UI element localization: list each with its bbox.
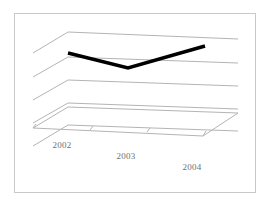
chart-background bbox=[0, 0, 270, 205]
x-tick-label-2004: 2004 bbox=[183, 162, 202, 172]
chart-canvas: 200220032004 bbox=[0, 0, 270, 205]
x-tick-label-2002: 2002 bbox=[53, 140, 72, 150]
x-tick-label-2003: 2003 bbox=[117, 151, 136, 161]
chart-3d-line: 200220032004 bbox=[0, 0, 270, 205]
